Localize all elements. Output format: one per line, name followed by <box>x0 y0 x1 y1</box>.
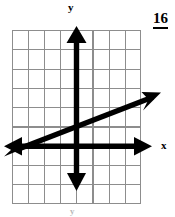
x-axis-label: x <box>161 140 167 151</box>
problem-number: 16 <box>153 11 168 29</box>
coordinate-plane-figure: y x y 16 <box>0 0 175 217</box>
y-axis-label: y <box>68 2 74 13</box>
graph-svg <box>0 0 175 217</box>
y-axis-label-bottom: y <box>70 207 75 216</box>
x-axis-arrow-right <box>134 137 152 156</box>
